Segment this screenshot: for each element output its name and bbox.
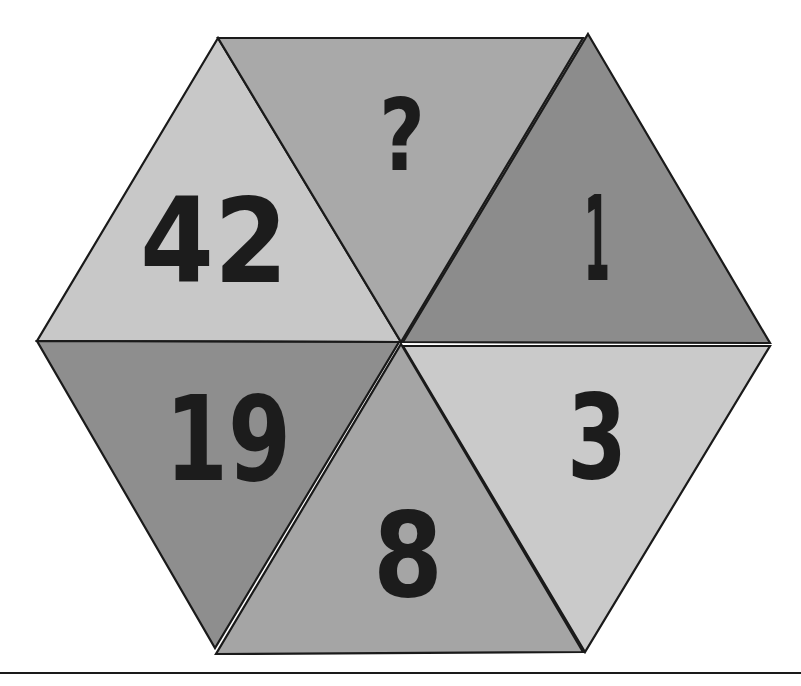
unknown-marker-top-center: ? — [379, 77, 425, 194]
number-bottom-right: 3 — [567, 368, 627, 506]
number-top-left: 42 — [140, 172, 288, 310]
hexagon-puzzle-diagram: 42 ? 1 3 8 19 — [0, 0, 801, 686]
number-top-right: 1 — [584, 170, 610, 308]
number-bottom-center: 8 — [373, 486, 443, 624]
number-bottom-left: 19 — [165, 370, 291, 508]
